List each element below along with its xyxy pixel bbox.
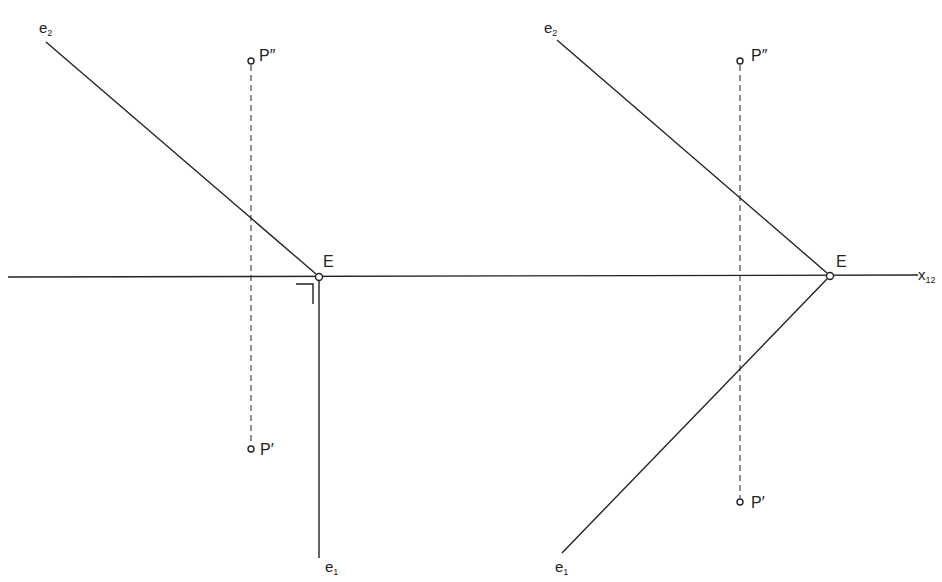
right-e2-line — [557, 40, 827, 273]
x12-axis-label: x12 — [918, 267, 936, 282]
right-e1-label: e1 — [555, 559, 568, 574]
left-P1-label: P′ — [260, 442, 274, 458]
right-P2-label: P″ — [751, 48, 767, 64]
left-E-point — [316, 274, 323, 281]
left-P2-point — [248, 58, 254, 64]
left-e2-label: e2 — [39, 20, 52, 35]
right-E-point — [827, 273, 834, 280]
right-e1-line — [562, 279, 827, 553]
right-e2-label: e2 — [544, 20, 557, 35]
diagram-canvas — [0, 0, 942, 582]
x12-axis — [8, 275, 918, 277]
right-P1-point — [737, 499, 743, 505]
right-angle-mark — [296, 284, 313, 304]
right-E-label: E — [836, 254, 847, 270]
left-E-label: E — [323, 254, 334, 270]
left-P1-point — [248, 446, 254, 452]
left-e2-line — [46, 42, 316, 274]
right-P1-label: P′ — [751, 495, 765, 511]
left-e1-label: e1 — [325, 559, 338, 574]
right-P2-point — [737, 58, 743, 64]
left-P2-label: P″ — [259, 48, 275, 64]
